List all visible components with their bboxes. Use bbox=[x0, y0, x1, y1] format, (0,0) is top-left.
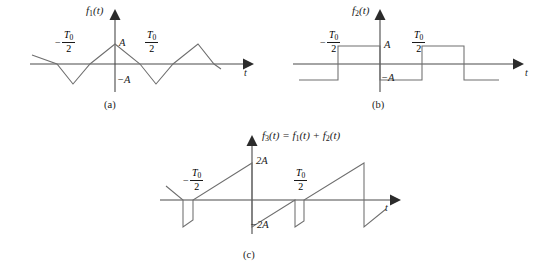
panel-c-t-axis-label: t bbox=[385, 203, 388, 213]
panel-b-period-right-numerator: T0 bbox=[412, 30, 425, 41]
panel-a-function-arg: (t) bbox=[93, 4, 103, 16]
figure-canvas: f1(t) A −A − T0 2 T0 2 t (a) f2(t) A −A … bbox=[0, 0, 545, 269]
panel-a-period-right-denominator: 2 bbox=[145, 43, 158, 54]
panel-c-period-right-denominator: 2 bbox=[294, 181, 307, 192]
panel-c-period-left-numerator: T0 bbox=[190, 168, 203, 179]
panel-c-period-left-minus: − bbox=[183, 176, 189, 186]
panel-b-plot bbox=[275, 0, 545, 115]
panel-b-amplitude-negative-label: −A bbox=[381, 73, 395, 84]
panel-b-period-left-denominator: 2 bbox=[327, 43, 340, 54]
panel-a-amplitude-positive-label: A bbox=[119, 38, 125, 49]
panel-c-period-label-left: − T0 2 bbox=[190, 168, 203, 192]
panel-a-function-label: f1(t) bbox=[86, 5, 103, 18]
panel-a-plot bbox=[0, 0, 270, 115]
panel-b-f-axis-arrow bbox=[375, 9, 386, 20]
panel-b-caption: (b) bbox=[372, 100, 384, 111]
panel-c-period-label-right: T0 2 bbox=[294, 168, 307, 192]
panel-c-equation-eq: = f bbox=[282, 129, 295, 141]
panel-a-period-left-minus: − bbox=[55, 38, 61, 48]
panel-c-equation-mid: (t) + f bbox=[299, 129, 325, 141]
panel-c-amplitude-positive-label: 2A bbox=[256, 156, 268, 167]
panel-a-period-right-numerator: T0 bbox=[145, 30, 158, 41]
panel-c-plot bbox=[140, 130, 430, 269]
panel-c-f-axis-arrow bbox=[247, 135, 258, 146]
panel-c-function-label: f3(t) = f1(t) + f2(t) bbox=[262, 130, 340, 143]
panel-b-function-arg: (t) bbox=[359, 4, 369, 16]
panel-c-function-arg: (t) bbox=[269, 129, 279, 141]
panel-b-period-label-left: − T0 2 bbox=[327, 30, 340, 54]
panel-a-caption: (a) bbox=[104, 100, 116, 111]
panel-b-t-axis-label: t bbox=[525, 68, 528, 78]
panel-c-period-right-numerator: T0 bbox=[294, 168, 307, 179]
panel-a-period-label-right: T0 2 bbox=[145, 30, 158, 54]
panel-b-t-axis-arrow bbox=[513, 59, 524, 70]
panel-c-period-left-denominator: 2 bbox=[190, 181, 203, 192]
panel-b-period-left-minus: − bbox=[320, 38, 326, 48]
panel-a-f-axis-arrow bbox=[110, 9, 121, 20]
panel-a-period-left-denominator: 2 bbox=[62, 43, 75, 54]
panel-b-function-label: f2(t) bbox=[352, 5, 369, 18]
panel-c-equation-end: (t) bbox=[330, 129, 340, 141]
panel-b-period-left-numerator: T0 bbox=[327, 30, 340, 41]
panel-c-amplitude-negative-label: −2A bbox=[250, 220, 269, 231]
panel-b-period-label-right: T0 2 bbox=[412, 30, 425, 54]
panel-c-caption: (c) bbox=[243, 250, 255, 261]
panel-a-t-axis-label: t bbox=[244, 68, 247, 78]
panel-a-period-label-left: − T0 2 bbox=[62, 30, 75, 54]
panel-a-amplitude-negative-label: −A bbox=[117, 75, 131, 86]
panel-c-t-axis-arrow bbox=[390, 195, 401, 206]
panel-b-amplitude-positive-label: A bbox=[384, 40, 390, 51]
panel-b-period-right-denominator: 2 bbox=[412, 43, 425, 54]
panel-a-period-left-numerator: T0 bbox=[62, 30, 75, 41]
